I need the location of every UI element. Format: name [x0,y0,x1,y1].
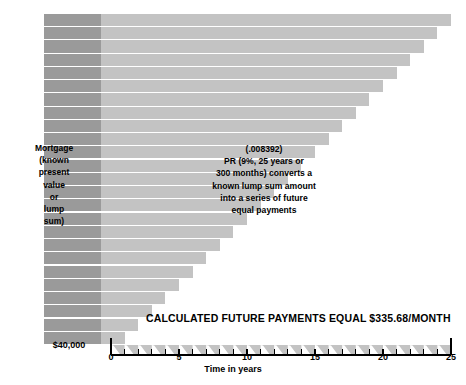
principal-bar-segment [44,319,101,331]
principal-bar-segment [44,266,101,278]
x-axis-tick-label: 15 [303,352,327,362]
payment-bar-segment [101,305,152,317]
payment-tooth [424,345,438,355]
result-banner-label: CALCULATED FUTURE PAYMENTS EQUAL $335.68… [146,312,451,324]
payment-tooth [138,345,152,355]
payment-tooth [397,345,411,355]
x-axis-tick-label: 10 [235,352,259,362]
principal-bar-segment [44,279,101,291]
payment-tooth [329,345,343,355]
payment-bar-segment [101,107,356,119]
principal-bar-segment [44,120,101,132]
payment-bar-segment [101,292,165,304]
payment-tooth [220,345,234,355]
payment-tooth [288,345,302,355]
payment-bar-segment [101,279,179,291]
payment-bar-segment [101,266,193,278]
payment-tooth [206,345,220,355]
principal-bar-segment [44,40,101,52]
x-axis-tick-label: 20 [371,352,395,362]
payment-tooth [193,345,207,355]
principal-bar-segment [44,14,101,26]
principal-bar-segment [44,80,101,92]
x-axis-tick-label: 25 [439,352,463,362]
payment-bar-segment [101,252,206,264]
principal-bar-segment [44,305,101,317]
principal-bar-segment [44,27,101,39]
principal-bar-segment [44,292,101,304]
payment-bar-segment [101,40,424,52]
payment-tooth [152,345,166,355]
payment-bar-segment [101,80,383,92]
payment-tooth [410,345,424,355]
principal-bar-segment [44,67,101,79]
x-axis-tick-label: 5 [167,352,191,362]
payment-tooth [125,345,139,355]
payment-sawtooth-group [111,345,451,355]
principal-amount-label: $40,000 [30,340,108,350]
principal-bar-segment [44,93,101,105]
x-axis-title: Time in years [0,364,466,374]
payment-bar-segment [101,239,220,251]
payment-bar-segment [101,54,410,66]
principal-bar-segment [44,239,101,251]
chart-figure: Mortgage (known present value or lump su… [0,0,466,385]
principal-bar-segment [44,252,101,264]
payment-bar-segment [101,319,138,331]
payment-bar-segment [101,67,397,79]
payment-bar-segment [101,14,451,26]
principal-bar-segment [44,107,101,119]
payment-tooth [342,345,356,355]
principal-block-label: Mortgage (known present value or lump su… [18,142,90,227]
payment-bar-segment [101,120,342,132]
principal-bar-segment [44,226,101,238]
principal-bar-segment [44,54,101,66]
pr-factor-annotation: (.008392) PR (9%, 25 years or 300 months… [175,143,353,216]
payment-bar-segment [101,226,233,238]
payment-tooth [274,345,288,355]
x-axis-tick-label: 0 [99,352,123,362]
payment-bar-segment [101,93,369,105]
payment-tooth [356,345,370,355]
payment-bar-segment [101,27,437,39]
payment-tooth [261,345,275,355]
